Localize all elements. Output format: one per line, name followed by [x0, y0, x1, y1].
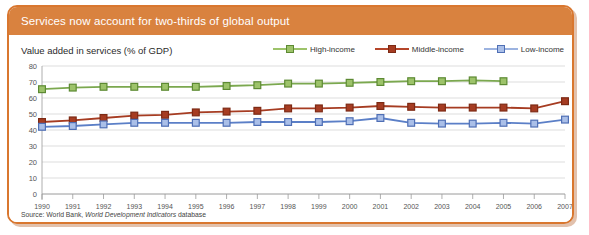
x-axis-tick-label: 1993 [127, 203, 143, 210]
data-point-marker [131, 119, 138, 126]
x-axis-tick-label: 1994 [157, 203, 173, 210]
series-line-low-income [42, 118, 565, 127]
y-axis-tick-label: 10 [29, 174, 37, 183]
x-axis-tick-label: 1997 [250, 203, 266, 210]
data-point-marker [162, 111, 169, 118]
y-axis-tick-label: 70 [29, 78, 37, 87]
data-point-marker [346, 79, 353, 86]
data-point-marker [377, 115, 384, 122]
data-point-marker [223, 83, 230, 90]
data-point-marker [192, 119, 199, 126]
x-axis-tick-label: 1995 [188, 203, 204, 210]
data-point-marker [469, 104, 476, 111]
x-axis-tick-label: 1992 [96, 203, 112, 210]
data-point-marker [377, 79, 384, 86]
data-point-marker [223, 108, 230, 115]
data-point-marker [192, 83, 199, 90]
data-point-marker [439, 120, 446, 127]
data-point-marker [39, 86, 46, 93]
data-point-marker [408, 103, 415, 110]
x-axis-tick-label: 2002 [403, 203, 419, 210]
x-axis-tick-label: 1998 [280, 203, 296, 210]
source-suffix: database [176, 211, 206, 218]
figure-body: Value added in services (% of GDP) High-… [9, 35, 572, 222]
plot-area: 0102030405060708019901991199219931994199… [9, 35, 574, 222]
data-point-marker [562, 116, 569, 123]
page-title: Services now account for two-thirds of g… [21, 15, 290, 27]
data-point-marker [192, 109, 199, 116]
data-point-marker [500, 119, 507, 126]
source-italic: World Development Indicators [85, 211, 176, 218]
x-axis-tick-label: 2007 [557, 203, 573, 210]
y-axis-tick-label: 60 [29, 94, 37, 103]
data-point-marker [346, 104, 353, 111]
data-point-marker [285, 105, 292, 112]
source-note: Source: World Bank, World Development In… [21, 211, 206, 218]
x-axis-tick-label: 2005 [496, 203, 512, 210]
y-axis-tick-label: 20 [29, 158, 37, 167]
data-point-marker [100, 121, 107, 128]
x-axis-tick-label: 2004 [465, 203, 481, 210]
data-point-marker [315, 105, 322, 112]
data-point-marker [469, 77, 476, 84]
data-point-marker [500, 78, 507, 85]
data-point-marker [377, 103, 384, 110]
data-point-marker [469, 120, 476, 127]
data-point-marker [408, 78, 415, 85]
data-point-marker [439, 104, 446, 111]
data-point-marker [69, 84, 76, 91]
data-point-marker [285, 80, 292, 87]
x-axis-tick-label: 1999 [311, 203, 327, 210]
y-axis-tick-label: 40 [29, 126, 37, 135]
data-point-marker [408, 119, 415, 126]
series-line-middle-income [42, 101, 565, 122]
x-axis-tick-label: 2001 [373, 203, 389, 210]
data-point-marker [531, 105, 538, 112]
data-point-marker [162, 83, 169, 90]
data-point-marker [254, 82, 261, 89]
data-point-marker [315, 80, 322, 87]
x-axis-tick-label: 2000 [342, 203, 358, 210]
data-point-marker [254, 107, 261, 114]
chart-figure: Services now account for two-thirds of g… [7, 5, 574, 224]
y-axis-tick-label: 0 [33, 190, 37, 199]
data-point-marker [100, 83, 107, 90]
data-point-marker [500, 104, 507, 111]
data-point-marker [100, 115, 107, 122]
data-point-marker [285, 119, 292, 126]
source-prefix: Source: World Bank, [21, 211, 85, 218]
x-axis-tick-label: 1990 [34, 203, 50, 210]
data-point-marker [254, 119, 261, 126]
data-point-marker [346, 118, 353, 125]
figure-title-bar: Services now account for two-thirds of g… [9, 7, 572, 35]
y-axis-tick-label: 50 [29, 110, 37, 119]
data-point-marker [162, 119, 169, 126]
y-axis-tick-label: 80 [29, 62, 37, 71]
x-axis-tick-label: 2003 [434, 203, 450, 210]
y-axis-tick-label: 30 [29, 142, 37, 151]
x-axis-tick-label: 1991 [65, 203, 81, 210]
chart-canvas: 0102030405060708019901991199219931994199… [9, 35, 574, 222]
x-axis-tick-label: 2006 [526, 203, 542, 210]
data-point-marker [131, 112, 138, 119]
x-axis-tick-label: 1996 [219, 203, 235, 210]
data-point-marker [131, 83, 138, 90]
data-point-marker [315, 119, 322, 126]
data-point-marker [69, 123, 76, 130]
data-point-marker [223, 119, 230, 126]
data-point-marker [531, 120, 538, 127]
data-point-marker [439, 78, 446, 85]
data-point-marker [39, 123, 46, 130]
data-point-marker [562, 98, 569, 105]
